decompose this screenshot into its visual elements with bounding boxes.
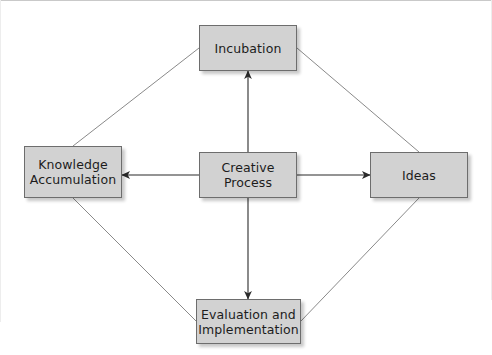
edge-ideas-to-evaluation-implementation: [301, 198, 419, 321]
node-incubation[interactable]: Incubation: [199, 25, 297, 71]
diagram-canvas: Incubation Knowledge Accumulation Creati…: [0, 0, 492, 355]
edge-knowledge-accumulation-to-incubation: [73, 48, 199, 146]
node-incubation-label: Incubation: [211, 41, 286, 56]
node-creative-process[interactable]: Creative Process: [199, 152, 297, 198]
node-ideas-label: Ideas: [398, 168, 440, 183]
node-knowledge-accumulation[interactable]: Knowledge Accumulation: [24, 146, 122, 198]
node-evaluation-implementation[interactable]: Evaluation and Implementation: [196, 299, 301, 344]
node-evaluation-implementation-label: Evaluation and Implementation: [194, 307, 303, 337]
node-creative-process-label: Creative Process: [217, 160, 278, 190]
edge-knowledge-accumulation-to-evaluation-implementation: [73, 198, 196, 321]
node-ideas[interactable]: Ideas: [370, 152, 468, 198]
edge-incubation-to-ideas: [297, 48, 419, 152]
node-knowledge-accumulation-label: Knowledge Accumulation: [26, 157, 120, 187]
